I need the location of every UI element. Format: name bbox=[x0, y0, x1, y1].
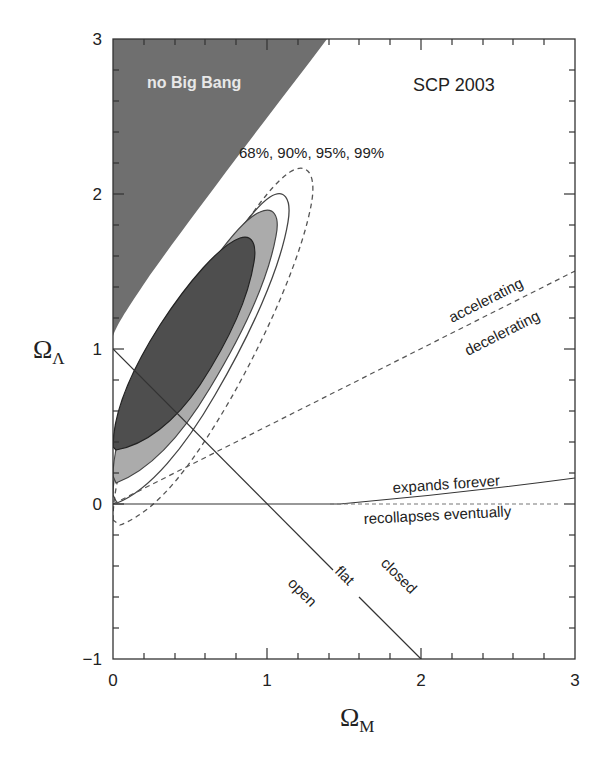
chart-svg: 0 1 2 3 −1 0 1 2 3 ΩM ΩΛ no Big Bang SCP… bbox=[0, 0, 611, 761]
y-tick-2: 2 bbox=[93, 185, 102, 204]
y-tick-m1: −1 bbox=[83, 650, 102, 669]
y-tick-1: 1 bbox=[93, 340, 102, 359]
y-tick-0: 0 bbox=[93, 495, 102, 514]
x-axis-title: ΩM bbox=[340, 703, 374, 736]
flat-line-lower bbox=[359, 597, 421, 659]
x-tick-2: 2 bbox=[416, 671, 425, 690]
closed-label: closed bbox=[378, 554, 421, 597]
flat-label: flat bbox=[332, 562, 359, 589]
chart-title: SCP 2003 bbox=[413, 75, 495, 95]
no-big-bang-label: no Big Bang bbox=[147, 74, 241, 91]
x-tick-1: 1 bbox=[262, 671, 271, 690]
confidence-levels-label: 68%, 90%, 95%, 99% bbox=[239, 144, 384, 161]
expansion-boundary bbox=[113, 478, 575, 504]
x-tick-0: 0 bbox=[108, 671, 117, 690]
open-label: open bbox=[285, 574, 321, 610]
x-tick-3: 3 bbox=[570, 671, 579, 690]
y-tick-3: 3 bbox=[93, 30, 102, 49]
y-axis-title: ΩΛ bbox=[33, 335, 65, 368]
recollapses-label: recollapses eventually bbox=[363, 502, 512, 527]
expands-forever-label: expands forever bbox=[392, 472, 501, 496]
